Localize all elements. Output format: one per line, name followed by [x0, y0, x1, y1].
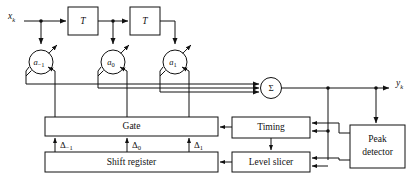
tap-gain-a1: a1	[160, 45, 191, 76]
tap-gain-a0: a0	[98, 45, 129, 76]
level-slicer-block: Level slicer	[232, 152, 310, 172]
peak-detector-block: Peak detector	[350, 125, 405, 168]
summing-junction-label: Σ	[268, 83, 273, 93]
timing-block-label: Timing	[257, 122, 285, 132]
input-signal-path	[24, 19, 66, 23]
tap-gain-a-minus1-stub	[26, 71, 32, 77]
input-signal-label: xk	[7, 11, 15, 23]
delay-t2-label: T	[142, 16, 148, 26]
delay-t2-output-path	[160, 21, 175, 44]
shift-register-block: Shift register	[45, 152, 218, 172]
tap-gain-a0-stub	[98, 71, 104, 77]
tap-output-path-1	[26, 67, 259, 84]
tap-gain-a1-adjust-arrow	[183, 45, 191, 54]
delay-t2: T	[130, 7, 160, 35]
tap-gain-a-minus1-adjust-arrow	[49, 45, 57, 54]
output-bus-junction-timing	[326, 129, 330, 133]
tap-gain-a1-stub	[160, 71, 166, 77]
block-diagram-figure: xk T T a−1 a0 a1	[0, 0, 419, 182]
gate-to-tap2-path	[120, 67, 127, 117]
peak-to-slicer-path	[312, 158, 350, 160]
gate-block: Gate	[45, 117, 218, 136]
delta-label-2: Δ0	[132, 140, 141, 151]
delay-t1-label: T	[80, 16, 86, 26]
gate-to-tap1-path	[48, 67, 55, 117]
peak-detector-block-label-line1: Peak	[368, 134, 387, 144]
delta-label-3: Δ1	[194, 140, 203, 151]
output-signal-label: yk	[395, 78, 403, 90]
summing-junction: Σ	[261, 78, 282, 99]
delay-t1: T	[68, 7, 98, 35]
tap-gain-a-minus1: a−1	[26, 45, 57, 76]
shift-register-block-label: Shift register	[107, 157, 157, 167]
delta-label-1: Δ−1	[60, 140, 73, 151]
diagram-canvas: xk T T a−1 a0 a1	[0, 0, 419, 182]
level-slicer-block-label: Level slicer	[249, 157, 294, 167]
gate-block-label: Gate	[123, 121, 141, 131]
output-signal-path	[282, 86, 390, 90]
tap-gain-a0-adjust-arrow	[121, 45, 129, 54]
timing-block: Timing	[232, 117, 310, 138]
peak-detector-block-label-line2: detector	[362, 147, 393, 157]
